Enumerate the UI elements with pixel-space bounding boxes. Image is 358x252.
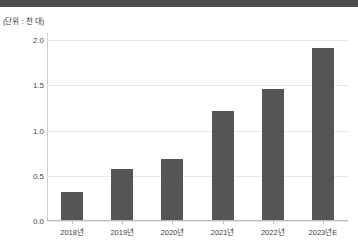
plot-area (47, 33, 348, 221)
x-axis-tick-mark (323, 221, 324, 224)
bar (312, 48, 334, 220)
bar (161, 159, 183, 220)
y-axis-tick-label: 1.5 (4, 81, 44, 90)
unit-label: (단위 : 천 대) (3, 15, 44, 26)
y-axis-tick-label: 0.0 (4, 217, 44, 226)
y-axis-tick-label: 1.0 (4, 126, 44, 135)
bar (262, 89, 284, 220)
y-axis-tick-label: 2.0 (4, 36, 44, 45)
y-axis-tick-labels: 0.00.51.01.52.0 (0, 33, 44, 221)
x-axis-tick-mark (273, 221, 274, 224)
bar (61, 192, 83, 220)
x-axis-tick-label: 2023년E (293, 226, 353, 237)
x-axis-tick-labels: 2018년2019년2020년2021년2022년2023년E (47, 226, 348, 240)
x-axis-tick-mark (172, 221, 173, 224)
x-axis-tick-mark (223, 221, 224, 224)
gridline (47, 131, 348, 132)
gridline (47, 85, 348, 86)
y-axis-tick-label: 0.5 (4, 171, 44, 180)
y-axis-line (47, 33, 48, 221)
bar (111, 169, 133, 220)
bar (212, 111, 234, 220)
chart-figure: (단위 : 천 대) 0.00.51.01.52.0 2018년2019년202… (0, 0, 358, 252)
top-banner-strip (0, 0, 358, 7)
x-axis-tick-mark (72, 221, 73, 224)
gridline (47, 176, 348, 177)
x-axis-tick-mark (122, 221, 123, 224)
gridline (47, 40, 348, 41)
gridline (47, 221, 348, 222)
